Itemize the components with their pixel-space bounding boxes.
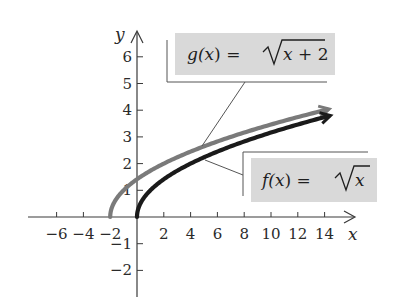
x-tick-label: 8 <box>239 225 249 243</box>
y-tick-label: −2 <box>110 261 132 279</box>
square-root-functions-chart: −6−4−22468101214 −2−1123456 x y g(x) = x… <box>0 0 400 305</box>
x-tick-label: −6 <box>46 225 68 243</box>
y-tick-label: −1 <box>110 235 132 253</box>
f-label-radicand: x <box>355 170 365 190</box>
x-axis-label: x <box>348 224 358 244</box>
y-tick-labels: −2−1123456 <box>110 48 132 280</box>
x-tick-label: 6 <box>213 225 223 243</box>
x-tick-label: −4 <box>72 225 94 243</box>
x-ticks <box>57 212 325 217</box>
f-label-leader <box>205 160 243 175</box>
x-tick-label: 10 <box>261 225 280 243</box>
g-label-radicand: x + 2 <box>283 44 328 64</box>
x-tick-label: 2 <box>159 225 169 243</box>
f-label-text: f(x) = <box>260 170 311 190</box>
y-tick-label: 6 <box>122 48 132 66</box>
y-tick-label: 3 <box>122 128 132 146</box>
x-tick-label: 4 <box>186 225 196 243</box>
y-tick-label: 2 <box>122 155 132 173</box>
x-tick-label: 14 <box>315 225 334 243</box>
y-tick-label: 5 <box>122 75 132 93</box>
x-tick-labels: −6−4−22468101214 <box>46 225 335 243</box>
g-label-text: g(x) = <box>187 44 240 64</box>
f-label-callout: f(x) = x <box>205 152 377 202</box>
y-axis-label: y <box>114 24 125 44</box>
y-tick-label: 4 <box>122 101 132 119</box>
y-ticks <box>137 57 143 271</box>
x-tick-label: 12 <box>288 225 307 243</box>
